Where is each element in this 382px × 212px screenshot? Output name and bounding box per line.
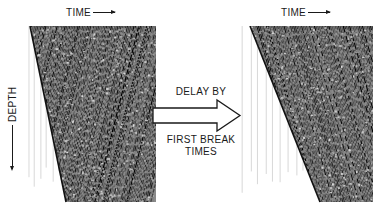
right-seismic-panel — [240, 26, 375, 206]
depth-label-text: DEPTH — [7, 87, 18, 122]
left-time-label-text: TIME — [66, 7, 91, 18]
left-seismic-panel — [26, 26, 158, 206]
right-arrow-icon — [308, 12, 330, 13]
right-arrow-icon — [93, 12, 115, 13]
right-time-label-text: TIME — [281, 7, 306, 18]
operation-line2: FIRST BREAK — [158, 134, 244, 145]
operation-line3: TIMES — [166, 146, 236, 157]
down-arrow-icon — [12, 125, 13, 169]
operation-line1: DELAY BY — [166, 86, 236, 97]
left-time-axis-label: TIME — [66, 7, 115, 18]
right-time-axis-label: TIME — [281, 7, 330, 18]
depth-axis-label: DEPTH — [6, 92, 20, 172]
transform-arrow-icon — [150, 97, 244, 135]
